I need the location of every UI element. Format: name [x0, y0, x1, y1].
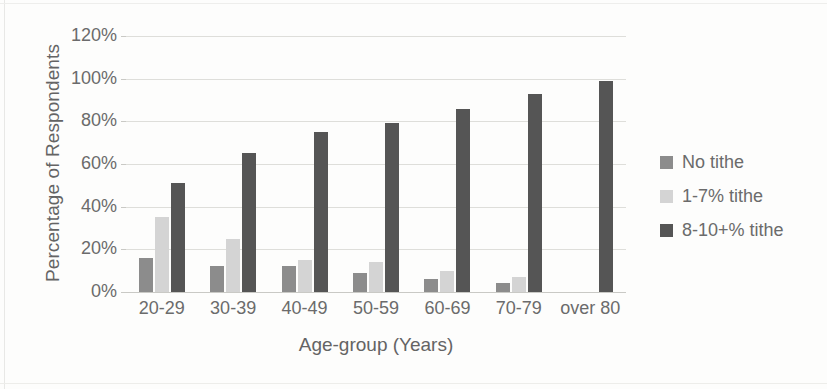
bar-group [269, 36, 340, 292]
x-axis-title: Age-group (Years) [126, 334, 626, 356]
bar [440, 271, 454, 292]
legend-swatch-icon [660, 224, 673, 237]
chart-legend: No tithe1-7% tithe8-10+% tithe [660, 145, 784, 247]
legend-item[interactable]: No tithe [660, 145, 784, 179]
bar [512, 277, 526, 292]
bar-group [340, 36, 411, 292]
bar-group [126, 36, 197, 292]
bar [314, 132, 328, 292]
plot-area: 0%20%40%60%80%100%120% 20-2930-3940-4950… [126, 36, 626, 292]
bar [528, 94, 542, 292]
bar [282, 266, 296, 292]
legend-swatch-icon [660, 156, 673, 169]
legend-label: No tithe [682, 152, 744, 173]
bar [210, 266, 224, 292]
y-axis-tick-label: 20% [81, 238, 117, 259]
bar [242, 153, 256, 292]
bar [139, 258, 153, 292]
bar-group [197, 36, 268, 292]
legend-item[interactable]: 8-10+% tithe [660, 213, 784, 247]
bar-group [412, 36, 483, 292]
bar [496, 283, 510, 292]
bar-group [555, 36, 626, 292]
x-axis-line [126, 292, 626, 293]
bar [424, 279, 438, 292]
bars-layer [126, 36, 626, 292]
bar [599, 81, 613, 292]
y-axis-tick-label: 40% [81, 196, 117, 217]
page-edge-left [4, 0, 5, 389]
bar [298, 260, 312, 292]
y-axis-tick-label: 100% [71, 68, 117, 89]
legend-label: 8-10+% tithe [682, 220, 784, 241]
x-axis-tick-label: 40-49 [269, 298, 340, 319]
y-axis-tick-label: 0% [91, 281, 117, 302]
bar [456, 109, 470, 292]
x-axis-tick-label: 60-69 [412, 298, 483, 319]
legend-label: 1-7% tithe [682, 186, 763, 207]
bar [385, 123, 399, 292]
legend-swatch-icon [660, 190, 673, 203]
x-axis-tick-label: 30-39 [197, 298, 268, 319]
y-axis-tick-label: 120% [71, 25, 117, 46]
legend-item[interactable]: 1-7% tithe [660, 179, 784, 213]
bar [171, 183, 185, 292]
bar [226, 239, 240, 292]
page-edge-top [0, 3, 827, 4]
x-axis-tick-label: 50-59 [340, 298, 411, 319]
x-axis-tick-label: 20-29 [126, 298, 197, 319]
y-axis-tick-label: 60% [81, 153, 117, 174]
bar [155, 217, 169, 292]
page-edge-bottom [0, 383, 827, 384]
y-axis-tick-label: 80% [81, 110, 117, 131]
bar [353, 273, 367, 292]
x-axis-tick-label: over 80 [555, 298, 626, 319]
bar-group [483, 36, 554, 292]
bar-chart: Percentage of Respondents 0%20%40%60%80%… [0, 0, 827, 389]
y-axis-title: Percentage of Respondents [42, 28, 64, 298]
bar [369, 262, 383, 292]
x-axis-tick-label: 70-79 [483, 298, 554, 319]
y-axis-tick-mark [121, 292, 126, 293]
